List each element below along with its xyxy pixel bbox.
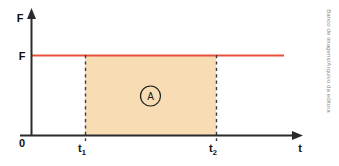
- y-axis-title: F: [17, 12, 24, 24]
- area-label-text: A: [147, 91, 154, 102]
- y-axis-arrowhead: [27, 8, 36, 19]
- credit-text: Banco de imagens/Arquivo da editora: [326, 9, 332, 113]
- credit-line: Banco de imagens/Arquivo da editora: [321, 0, 337, 166]
- x-tick-label-t2-subscript: 2: [213, 148, 217, 157]
- force-time-graph: A F F 0 t1 t2 t Banco de imagens/Arquivo…: [0, 0, 339, 166]
- x-tick-label-t1-subscript: 1: [82, 148, 86, 157]
- x-axis-arrowhead: [292, 131, 303, 140]
- origin-label: 0: [19, 137, 25, 149]
- y-tick-label-force: F: [19, 50, 26, 62]
- x-tick-label-t2: t2: [209, 142, 217, 157]
- graph-canvas: A F F 0 t1 t2 t: [0, 0, 339, 166]
- x-axis-title: t: [298, 142, 302, 154]
- x-tick-label-t1: t1: [78, 142, 86, 157]
